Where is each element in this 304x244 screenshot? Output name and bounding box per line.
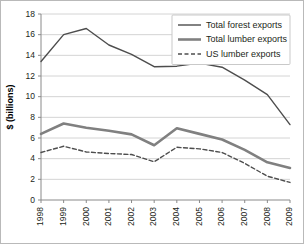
x-tick-label: 2005 [194,207,204,226]
series-line-1 [41,124,290,168]
x-tick-label: 2002 [126,207,136,226]
x-tick-label: 2001 [103,207,113,226]
legend-label-0: Total forest exports [206,20,283,30]
y-tick-label: 8 [30,112,35,122]
x-tick-label: 2006 [216,207,226,226]
x-tick-label: 1999 [58,207,68,226]
y-tick-label: 0 [30,195,35,205]
y-tick-label: 14 [26,50,36,60]
series-line-2 [41,146,290,182]
line-chart: 024681012141618 199819992000200120022003… [1,1,303,243]
x-tick-label: 2007 [239,207,249,226]
chart-frame: 024681012141618 199819992000200120022003… [0,0,304,244]
x-tick-label: 1998 [35,207,45,226]
y-tick-label: 4 [30,153,35,163]
y-tick-label: 6 [30,133,35,143]
y-tick-label: 12 [26,71,36,81]
y-tick-label: 2 [30,174,35,184]
x-tick-label: 2009 [284,207,294,226]
y-tick-label: 16 [26,29,36,39]
x-tick-label: 2000 [81,207,91,226]
y-tick-label: 10 [26,91,36,101]
chart-legend: Total forest exportsTotal lumber exports… [172,15,290,65]
x-tick-label: 2004 [171,207,181,226]
y-tick-label: 18 [26,9,36,19]
x-tick-label: 2003 [148,207,158,226]
y-axis-title: $ (billions) [5,84,15,129]
legend-label-1: Total lumber exports [206,34,288,44]
legend-label-2: US lumber exports [206,49,281,59]
y-axis-ticks-group: 024681012141618 [26,9,41,205]
x-tick-label: 2008 [262,207,272,226]
x-axis-ticks-group: 1998199920002001200220032004200520062007… [35,200,294,226]
